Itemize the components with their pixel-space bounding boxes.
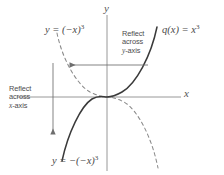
x-axis-label: x [184,88,189,99]
curve-label-double-reflected: y = −(−x)3 [52,156,98,167]
curve-label-cubic: q(x) = x3 [162,25,199,36]
curve-label-cubic-exponent: 3 [196,23,200,31]
annotation-reflect-across-y-axis: Reflect across y-axis [122,30,144,55]
annotation-reflect-y-axis-suffix: -axis [125,46,140,55]
curve-label-reflected-cubic: y = (−x)3 [45,25,84,36]
annotation-reflect-x-line3: x-axis [9,102,31,110]
annotation-reflect-across-x-axis: Reflect across x-axis [9,85,31,110]
curve-label-double-reflected-exponent: 3 [95,154,99,162]
annotation-reflect-x-axis-suffix: -axis [12,101,27,110]
y-axis-label: y [104,3,109,14]
curve-label-reflected-cubic-exponent: 3 [81,23,85,31]
curve-label-reflected-cubic-text: y = (−x) [45,24,81,35]
curve-label-cubic-text: q(x) = x [162,24,196,35]
annotation-reflect-y-line3: y-axis [122,47,144,55]
curve-label-double-reflected-text: y = −(−x) [52,155,95,166]
